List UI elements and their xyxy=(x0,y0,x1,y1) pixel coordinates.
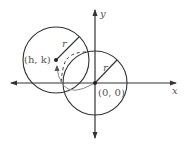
x-axis-label: x xyxy=(172,85,178,96)
translated-radius-line xyxy=(56,37,79,60)
origin-radius-label: r xyxy=(103,62,109,73)
hk-point xyxy=(54,58,58,62)
hk-label: (h, k) xyxy=(24,54,51,65)
origin-label: (0, 0) xyxy=(98,87,125,98)
y-axis-label: y xyxy=(99,8,106,19)
diagram-canvas: y x (0, 0) (h, k) r r xyxy=(0,0,185,144)
translated-radius-label: r xyxy=(62,38,68,49)
origin-point xyxy=(93,81,97,85)
